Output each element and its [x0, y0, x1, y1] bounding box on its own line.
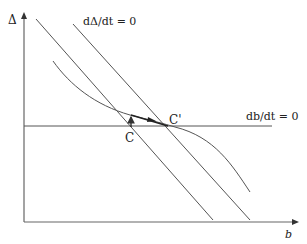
delta-nullcline-label: dΔ/dt = 0 — [83, 15, 136, 28]
y-axis-label: Δ — [8, 13, 17, 27]
b-nullcline-label: db/dt = 0 — [246, 110, 298, 123]
point-c-prime-label: C' — [169, 113, 181, 127]
initial-delta-nullcline — [36, 19, 213, 220]
y-axis-arrow-icon — [21, 12, 27, 19]
x-axis-label: b — [285, 228, 292, 241]
phase-diagram: Δ b dΔ/dt = 0 db/dt = 0 C C' — [0, 0, 307, 244]
y-axis — [21, 12, 27, 222]
delta-nullcline — [73, 24, 250, 220]
x-axis — [24, 219, 299, 225]
point-c-label: C — [125, 131, 134, 145]
x-axis-arrow-icon — [292, 219, 299, 225]
